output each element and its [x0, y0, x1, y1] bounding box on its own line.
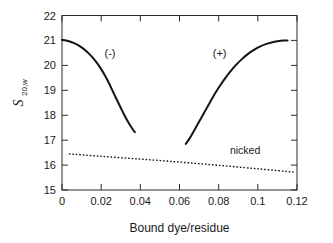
x-tick-label: 0 [59, 195, 65, 207]
x-tick-label: 0.06 [169, 195, 190, 207]
y-tick-label: 20 [44, 59, 56, 71]
series-negative-supercoil-branch [62, 40, 135, 132]
chart-figure: 22 21 20 19 18 17 16 15 0 0.02 0.04 0.06… [0, 0, 333, 243]
y-axis-title-subscript: 20,w [20, 79, 29, 96]
negative-branch-label: (-) [104, 47, 115, 59]
y-tick-label: 18 [44, 109, 56, 121]
y-tick-label: 17 [44, 134, 56, 146]
x-tick-label: 0.02 [90, 195, 111, 207]
y-axis-ticks [62, 16, 297, 191]
y-tick-label: 19 [44, 84, 56, 96]
x-tick-label: 0.1 [250, 195, 265, 207]
x-tick-label: 0.04 [130, 195, 151, 207]
x-tick-label: 0.08 [208, 195, 229, 207]
y-tick-label: 15 [44, 184, 56, 196]
y-tick-labels: 22 21 20 19 18 17 16 15 [44, 10, 56, 197]
y-axis-title: S 20,w [11, 79, 29, 107]
x-tick-labels: 0 0.02 0.04 0.06 0.08 0.1 0.12 [59, 195, 308, 207]
positive-branch-label: (+) [213, 47, 227, 59]
y-tick-label: 16 [44, 159, 56, 171]
y-tick-label: 22 [44, 10, 56, 22]
series-positive-supercoil-branch [186, 40, 288, 144]
x-axis-ticks [62, 16, 297, 191]
y-tick-label: 21 [44, 34, 56, 46]
series-nicked [69, 154, 294, 172]
x-tick-label: 0.12 [286, 195, 307, 207]
plot-frame [62, 16, 297, 191]
sedimentation-coefficient-chart: 22 21 20 19 18 17 16 15 0 0.02 0.04 0.06… [0, 0, 333, 243]
nicked-label: nicked [230, 144, 261, 156]
x-axis-title: Bound dye/residue [129, 221, 229, 235]
y-axis-title-base: S [11, 100, 26, 107]
